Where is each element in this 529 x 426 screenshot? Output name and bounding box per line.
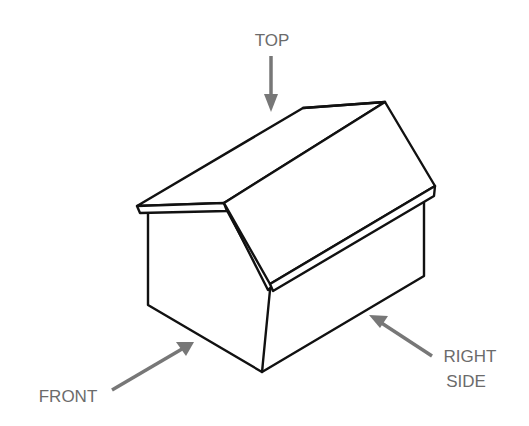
house-diagram: TOP FRONT RIGHT SIDE	[0, 0, 529, 426]
front-arrow	[112, 342, 194, 390]
right-side-arrow	[369, 315, 432, 356]
right-side-label-line2: SIDE	[446, 372, 486, 391]
front-label: FRONT	[39, 387, 98, 406]
top-label: TOP	[255, 31, 290, 50]
top-arrow	[264, 56, 278, 112]
right-side-label-line1: RIGHT	[444, 347, 497, 366]
roof-front-trim	[137, 203, 227, 213]
